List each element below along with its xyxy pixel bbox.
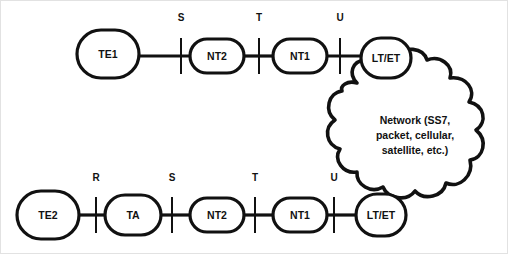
node-nt1-bottom-label: NT1 <box>290 209 310 221</box>
reference-label-s-bottom: S <box>169 172 176 183</box>
network-reference-diagram: Network (SS7, packet, cellular, satellit… <box>0 0 508 254</box>
top-row-reference-labels: S T U <box>178 12 344 23</box>
cloud-text-line-2: packet, cellular, <box>376 129 454 141</box>
reference-label-t-bottom: T <box>252 172 258 183</box>
reference-label-r-bottom: R <box>92 172 100 183</box>
reference-label-u-top: U <box>336 12 343 23</box>
node-lt-et-bottom-label: LT/ET <box>367 209 396 221</box>
node-lt-et-top-label: LT/ET <box>372 52 401 64</box>
cloud-text-line-3: satellite, etc.) <box>382 144 449 156</box>
reference-label-s-top: S <box>178 12 185 23</box>
reference-label-t-top: T <box>256 12 262 23</box>
reference-label-u-bottom: U <box>330 172 337 183</box>
node-nt2-top-label: NT2 <box>207 50 227 62</box>
cloud-text-line-1: Network (SS7, <box>380 114 451 126</box>
node-nt1-top-label: NT1 <box>290 50 310 62</box>
diagram-canvas: Network (SS7, packet, cellular, satellit… <box>0 0 508 254</box>
bottom-row-reference-labels: R S T U <box>92 172 337 183</box>
node-te2-label: TE2 <box>38 209 57 221</box>
node-ta-label: TA <box>126 209 140 221</box>
node-te1-label: TE1 <box>98 48 117 60</box>
node-nt2-bottom-label: NT2 <box>207 209 227 221</box>
